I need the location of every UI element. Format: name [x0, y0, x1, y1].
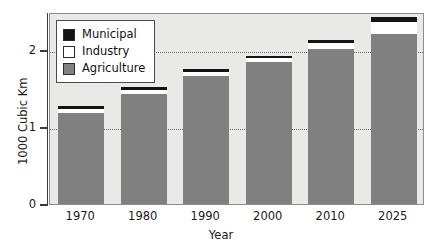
x-tick-label-1970: 1970	[50, 211, 110, 223]
x-tick-label-2010: 2010	[300, 211, 360, 223]
legend-swatch-municipal-icon	[63, 29, 75, 41]
y-tick-label: 0	[14, 199, 36, 211]
y-tick-mark-2	[40, 50, 48, 51]
bar-2010	[308, 40, 354, 204]
bar-segment-industry	[58, 109, 104, 113]
bar-segment-industry	[246, 58, 292, 62]
bar-2025	[371, 17, 417, 204]
x-tick-label-1990: 1990	[175, 211, 235, 223]
bar-1990	[183, 69, 229, 204]
y-tick-label: 1	[14, 122, 36, 134]
bar-segment-agriculture	[308, 49, 354, 204]
x-tick-label-2000: 2000	[238, 211, 298, 223]
bar-segment-industry	[121, 90, 167, 94]
legend-item-industry: Industry	[63, 43, 145, 60]
bar-segment-industry	[308, 43, 354, 49]
legend-item-municipal: Municipal	[63, 26, 145, 43]
legend-label: Agriculture	[82, 63, 145, 75]
bar-segment-industry	[371, 22, 417, 34]
bar-1980	[121, 87, 167, 204]
bar-segment-municipal	[121, 87, 167, 90]
legend-swatch-industry-icon	[63, 46, 75, 58]
bar-segment-industry	[183, 72, 229, 76]
x-axis-title: Year	[0, 228, 442, 242]
y-tick-label: 2	[14, 45, 36, 57]
x-tick-label-2025: 2025	[363, 211, 423, 223]
y-tick-mark-1	[40, 127, 48, 128]
legend-item-agriculture: Agriculture	[63, 60, 145, 77]
y-tick-mark-0	[40, 204, 48, 205]
bar-segment-municipal	[183, 69, 229, 72]
bar-segment-agriculture	[121, 94, 167, 204]
x-tick-label-1980: 1980	[113, 211, 173, 223]
bar-segment-municipal	[246, 56, 292, 58]
bar-segment-agriculture	[183, 76, 229, 204]
bar-1970	[58, 106, 104, 204]
bar-segment-agriculture	[246, 62, 292, 204]
gridline-1	[50, 129, 423, 130]
bar-segment-municipal	[308, 40, 354, 43]
bar-segment-municipal	[58, 106, 104, 109]
bar-segment-agriculture	[371, 34, 417, 204]
legend-label: Industry	[82, 46, 129, 58]
legend-swatch-agriculture-icon	[63, 63, 75, 75]
bar-2000	[246, 56, 292, 204]
chart-figure: 1000 Cubic Km 012 MunicipalIndustryAgric…	[0, 0, 442, 248]
legend-label: Municipal	[82, 29, 137, 41]
bar-segment-municipal	[371, 17, 417, 22]
bar-segment-agriculture	[58, 113, 104, 204]
chart-legend: MunicipalIndustryAgriculture	[56, 20, 155, 83]
